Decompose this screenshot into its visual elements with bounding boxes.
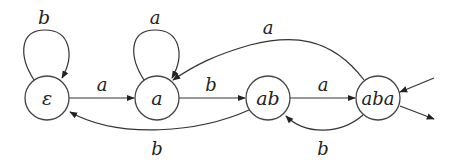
edge-label: b — [38, 6, 50, 28]
edge-label: b — [205, 74, 217, 95]
edge-label: a — [318, 74, 329, 95]
edge-label: a — [150, 7, 161, 28]
edge-label: b — [317, 138, 329, 159]
edge-eps-eps: b — [24, 6, 69, 80]
edge-a-ab: b — [179, 74, 245, 98]
edge-label: b — [151, 138, 163, 159]
final-arrow — [400, 106, 434, 119]
initial-arrow — [400, 78, 434, 92]
edge-label: a — [263, 17, 274, 38]
state-label: ab — [256, 87, 280, 109]
state-a: a — [135, 76, 179, 120]
edge-a-a: a — [134, 7, 179, 80]
state-label: aba — [362, 88, 395, 109]
state-epsilon: ε — [25, 76, 69, 120]
automaton-diagram: b a a b b a b a ε — [0, 0, 458, 166]
edge-aba-a: a — [173, 17, 364, 80]
edge-eps-a: a — [69, 74, 134, 98]
edge-label: a — [97, 74, 108, 95]
edge-aba-ab: b — [286, 115, 363, 159]
state-ab: ab — [246, 76, 290, 120]
state-label: a — [151, 87, 162, 109]
state-label: ε — [42, 87, 52, 109]
state-aba: aba — [356, 76, 400, 120]
edge-ab-aba: a — [290, 74, 355, 98]
